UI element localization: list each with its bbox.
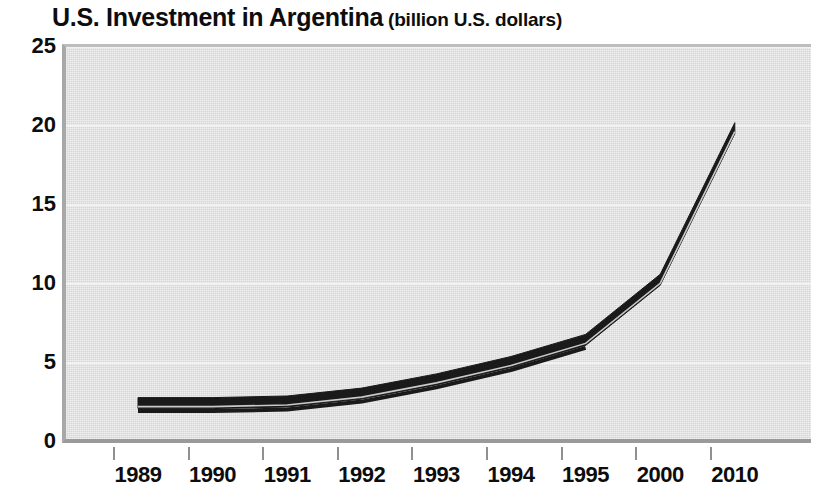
x-tick-mark-1994 — [486, 447, 488, 460]
x-tick-label-1995: 1995 — [562, 462, 609, 488]
x-tick-mark-1990 — [188, 447, 190, 460]
y-tick-label-15: 15 — [12, 191, 56, 217]
x-tick-label-2000: 2000 — [637, 462, 684, 488]
x-tick-mark-1992 — [337, 447, 339, 460]
x-tick-mark-2010 — [710, 447, 712, 460]
x-tick-label-1993: 1993 — [413, 462, 460, 488]
series-band — [138, 123, 735, 409]
chart-page: U.S. Investment in Argentina(billion U.S… — [0, 0, 829, 501]
x-tick-mark-1991 — [262, 447, 264, 460]
y-tick-label-0: 0 — [12, 428, 56, 454]
plot-area — [62, 44, 811, 443]
chart-title: U.S. Investment in Argentina(billion U.S… — [52, 2, 562, 32]
chart-title-main: U.S. Investment in Argentina — [52, 3, 383, 31]
y-tick-label-20: 20 — [12, 112, 56, 138]
x-tick-mark-2000 — [635, 447, 637, 460]
x-tick-label-1989: 1989 — [115, 462, 162, 488]
x-tick-label-1992: 1992 — [338, 462, 385, 488]
y-tick-label-5: 5 — [12, 349, 56, 375]
x-tick-label-1994: 1994 — [488, 462, 535, 488]
series-line — [66, 47, 811, 443]
chart-title-subtitle: (billion U.S. dollars) — [383, 9, 562, 30]
x-tick-label-1991: 1991 — [264, 462, 311, 488]
x-tick-label-2010: 2010 — [711, 462, 758, 488]
y-axis: 2520151050 — [0, 0, 56, 501]
x-tick-mark-1993 — [411, 447, 413, 460]
series-highlight — [138, 132, 735, 407]
x-tick-mark-1989 — [113, 447, 115, 460]
y-tick-label-25: 25 — [12, 33, 56, 59]
x-tick-label-1990: 1990 — [189, 462, 236, 488]
y-tick-label-10: 10 — [12, 270, 56, 296]
x-tick-mark-1995 — [561, 447, 563, 460]
